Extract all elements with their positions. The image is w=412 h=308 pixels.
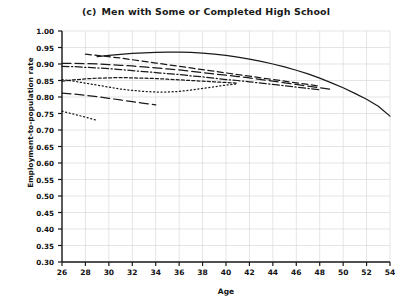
series-line	[62, 80, 238, 93]
y-tick-label: 0.55	[18, 176, 54, 185]
y-tick-label: 1.00	[18, 27, 54, 36]
x-tick-label: 28	[73, 268, 97, 277]
series-line	[97, 52, 390, 116]
y-tick-label: 0.65	[18, 143, 54, 152]
x-tick-label: 44	[261, 268, 285, 277]
tick-marks	[58, 31, 390, 266]
y-tick-label: 0.35	[18, 242, 54, 251]
x-tick-label: 34	[144, 268, 168, 277]
x-tick-label: 48	[308, 268, 332, 277]
plot-area	[0, 0, 412, 308]
x-tick-label: 50	[331, 268, 355, 277]
y-tick-label: 0.95	[18, 44, 54, 53]
y-tick-label: 0.40	[18, 225, 54, 234]
y-tick-label: 0.60	[18, 159, 54, 168]
x-tick-label: 52	[355, 268, 379, 277]
x-tick-label: 36	[167, 268, 191, 277]
y-tick-label: 0.30	[18, 258, 54, 267]
y-tick-label: 0.85	[18, 77, 54, 86]
x-tick-label: 32	[120, 268, 144, 277]
x-tick-label: 30	[97, 268, 121, 277]
gridlines	[62, 31, 390, 262]
y-tick-label: 0.90	[18, 60, 54, 69]
x-tick-label: 46	[284, 268, 308, 277]
y-tick-label: 0.75	[18, 110, 54, 119]
series-line	[62, 111, 97, 120]
x-tick-label: 26	[50, 268, 74, 277]
y-tick-label: 0.45	[18, 209, 54, 218]
y-tick-label: 0.50	[18, 192, 54, 201]
x-tick-label: 42	[237, 268, 261, 277]
y-tick-label: 0.70	[18, 126, 54, 135]
y-tick-label: 0.80	[18, 93, 54, 102]
x-tick-label: 54	[378, 268, 402, 277]
chart-figure: (c)Men with Some or Completed High Schoo…	[0, 0, 412, 308]
x-tick-label: 40	[214, 268, 238, 277]
x-tick-label: 38	[191, 268, 215, 277]
